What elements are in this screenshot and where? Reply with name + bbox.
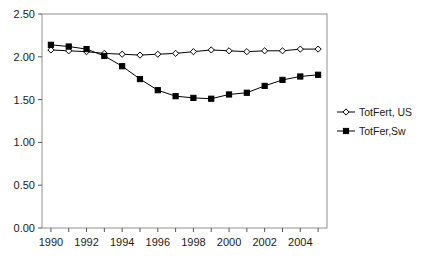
y-tick-label: 0.00 (14, 222, 35, 234)
data-point-marker (315, 46, 321, 52)
data-point-marker (262, 48, 268, 54)
y-tick-label: 1.00 (14, 136, 35, 148)
data-point-marker (297, 46, 303, 52)
data-point-marker (315, 72, 320, 77)
x-tick-label: 2004 (288, 236, 312, 248)
y-axis: 0.000.501.001.502.002.50 (14, 8, 42, 234)
legend-marker-icon (343, 109, 349, 115)
data-point-marker (209, 96, 214, 101)
y-tick-label: 2.50 (14, 8, 35, 20)
data-point-marker (155, 88, 160, 93)
data-point-marker (244, 49, 250, 55)
data-point-marker (155, 51, 161, 57)
y-tick-label: 1.50 (14, 94, 35, 106)
legend-label: TotFer,Sw (359, 125, 406, 137)
series-line (51, 49, 318, 55)
fertility-line-chart: 0.000.501.001.502.002.50 199019921994199… (0, 0, 426, 265)
legend-item: TotFert, US (337, 106, 412, 118)
chart-canvas: 0.000.501.001.502.002.50 199019921994199… (0, 0, 426, 265)
data-point-marker (298, 74, 303, 79)
data-point-marker (173, 94, 178, 99)
data-point-marker (119, 51, 125, 57)
chart-legend: TotFert, USTotFer,Sw (337, 106, 412, 137)
legend-marker-icon (343, 128, 348, 133)
data-point-marker (262, 83, 267, 88)
data-series-group (48, 42, 321, 101)
x-tick-label: 1992 (74, 236, 98, 248)
y-tick-label: 0.50 (14, 179, 35, 191)
data-point-marker (120, 64, 125, 69)
data-point-marker (66, 44, 71, 49)
data-point-marker (102, 53, 107, 58)
legend-item: TotFer,Sw (337, 125, 406, 137)
data-point-marker (280, 77, 285, 82)
x-axis: 19901992199419961998200020022004 (39, 228, 318, 248)
data-point-marker (226, 92, 231, 97)
x-tick-label: 1994 (110, 236, 134, 248)
data-point-marker (48, 42, 53, 47)
data-point-marker (226, 48, 232, 54)
x-tick-label: 1996 (146, 236, 170, 248)
legend-label: TotFert, US (359, 106, 412, 118)
data-point-marker (190, 49, 196, 55)
data-point-marker (84, 46, 89, 51)
data-point-marker (172, 50, 178, 56)
x-tick-label: 1990 (39, 236, 63, 248)
y-tick-label: 2.00 (14, 51, 35, 63)
x-tick-label: 1998 (181, 236, 205, 248)
data-point-marker (244, 90, 249, 95)
data-point-marker (208, 47, 214, 53)
data-point-marker (137, 76, 142, 81)
data-point-marker (191, 95, 196, 100)
x-tick-label: 2002 (252, 236, 276, 248)
x-tick-label: 2000 (217, 236, 241, 248)
data-point-marker (279, 48, 285, 54)
data-point-marker (137, 52, 143, 58)
